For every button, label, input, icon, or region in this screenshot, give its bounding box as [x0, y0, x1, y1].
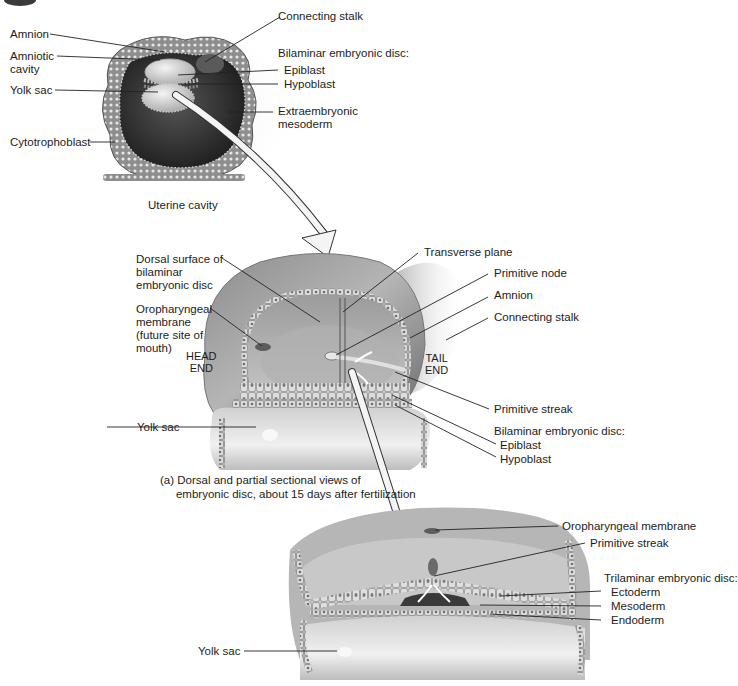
label-oropharyngeal-membrane-mid: Oropharyngeal membrane (future site of m…	[136, 303, 212, 355]
label-transverse-plane: Transverse plane	[424, 246, 512, 259]
label-hypoblast-top: Hypoblast	[284, 78, 335, 91]
label-extraembryonic-mesoderm: Extraembryonic mesoderm	[278, 105, 358, 131]
label-mesoderm: Mesoderm	[611, 600, 665, 613]
label-primitive-node: Primitive node	[494, 267, 567, 280]
label-oropharyngeal-membrane-bottom: Oropharyngeal membrane	[562, 520, 696, 533]
label-primitive-streak-bottom: Primitive streak	[590, 537, 669, 550]
label-yolk-sac-bottom: Yolk sac	[198, 645, 240, 658]
label-dorsal-surface: Dorsal surface of bilaminar embryonic di…	[136, 253, 223, 292]
label-connecting-stalk-top: Connecting stalk	[278, 10, 363, 23]
label-tail-end: TAIL END	[425, 352, 448, 376]
label-bilaminar-heading-top: Bilaminar embryonic disc:	[278, 47, 409, 60]
label-amnion-mid: Amnion	[494, 289, 533, 302]
label-connecting-stalk-mid: Connecting stalk	[494, 311, 579, 324]
label-head-end: HEAD END	[186, 350, 217, 374]
label-ectoderm: Ectoderm	[611, 586, 660, 599]
label-amnion-top: Amnion	[10, 28, 49, 41]
label-amniotic-cavity: Amniotic cavity	[10, 50, 54, 76]
label-yolk-sac-top: Yolk sac	[10, 84, 52, 97]
label-primitive-streak-mid: Primitive streak	[494, 403, 573, 416]
label-cytotrophoblast: Cytotrophoblast	[10, 136, 91, 149]
label-bilaminar-heading-mid: Bilaminar embryonic disc:	[494, 425, 625, 438]
label-hypoblast-mid: Hypoblast	[500, 453, 551, 466]
label-uterine-cavity: Uterine cavity	[148, 199, 218, 212]
label-epiblast-mid: Epiblast	[500, 439, 541, 452]
badge-fragment	[4, 0, 36, 6]
label-epiblast-top: Epiblast	[284, 64, 325, 77]
label-yolk-sac-mid: Yolk sac	[137, 421, 179, 434]
figure-caption: (a) Dorsal and partial sectional views o…	[160, 473, 416, 501]
label-endoderm: Endoderm	[611, 614, 664, 627]
label-trilaminar-heading: Trilaminar embryonic disc:	[604, 572, 738, 585]
